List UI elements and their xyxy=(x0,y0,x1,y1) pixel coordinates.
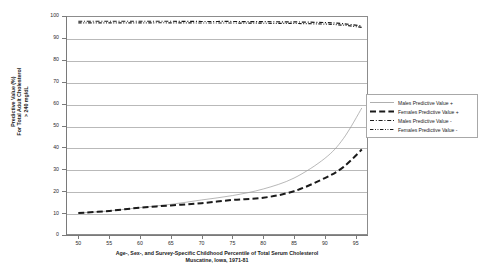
y-tick-label: 50 xyxy=(39,123,59,128)
legend-swatch-males-pv-plus xyxy=(369,99,395,106)
legend-swatch-females-pv-minus xyxy=(369,126,395,133)
y-tick-label: 30 xyxy=(39,167,59,172)
gridline-horizontal xyxy=(67,83,367,84)
gridline-horizontal xyxy=(67,61,367,62)
gridline-horizontal xyxy=(67,127,367,128)
y-tick-label: 100 xyxy=(39,13,59,18)
x-tick-label: 60 xyxy=(129,241,151,246)
plot-area xyxy=(66,16,368,235)
gridline-horizontal xyxy=(67,170,367,171)
x-tick-mark xyxy=(263,235,264,239)
y-axis-title: Predictive Value (%) For Total Adult Cho… xyxy=(10,37,29,167)
legend-item: Males Predictive Value + xyxy=(369,98,475,107)
y-tick-label: 0 xyxy=(39,232,59,237)
chart-legend: Males Predictive Value + Females Predict… xyxy=(366,94,478,138)
legend-label-females-pv-minus: Females Predictive Value - xyxy=(398,127,457,133)
x-axis-line xyxy=(66,235,368,236)
x-tick-label: 65 xyxy=(160,241,182,246)
legend-label-males-pv-plus: Males Predictive Value + xyxy=(398,100,453,106)
legend-swatch-males-pv-minus xyxy=(369,117,395,124)
y-tick-label: 60 xyxy=(39,101,59,106)
legend-item: Females Predictive Value - xyxy=(369,125,475,134)
y-tick-mark xyxy=(62,60,66,61)
legend-item: Males Predictive Value - xyxy=(369,116,475,125)
chart-container: 1009080706050403020100 50556065707580859… xyxy=(0,0,486,275)
x-axis-title-line2: Muscatine, Iowa, 1971-81 xyxy=(66,257,368,264)
x-axis-title-line1: Age-, Sex-, and Survey-Specific Childhoo… xyxy=(66,250,368,257)
y-axis-line xyxy=(66,16,67,235)
x-tick-mark xyxy=(294,235,295,239)
x-tick-mark xyxy=(140,235,141,239)
x-tick-mark xyxy=(171,235,172,239)
legend-item: Females Predictive Value + xyxy=(369,107,475,116)
x-tick-mark xyxy=(325,235,326,239)
y-tick-label: 80 xyxy=(39,57,59,62)
legend-label-females-pv-plus: Females Predictive Value + xyxy=(398,109,459,115)
gridline-horizontal xyxy=(67,192,367,193)
x-tick-label: 75 xyxy=(221,241,243,246)
gridline-horizontal xyxy=(67,148,367,149)
x-tick-mark xyxy=(109,235,110,239)
y-tick-label: 40 xyxy=(39,145,59,150)
x-tick-label: 90 xyxy=(314,241,336,246)
y-tick-mark xyxy=(62,169,66,170)
y-tick-mark xyxy=(62,147,66,148)
y-tick-mark xyxy=(62,16,66,17)
x-tick-label: 55 xyxy=(98,241,120,246)
y-tick-mark xyxy=(62,235,66,236)
x-tick-label: 95 xyxy=(345,241,367,246)
y-tick-label: 90 xyxy=(39,35,59,40)
x-tick-mark xyxy=(356,235,357,239)
y-tick-mark xyxy=(62,191,66,192)
legend-label-males-pv-minus: Males Predictive Value - xyxy=(398,118,452,124)
y-tick-mark xyxy=(62,126,66,127)
x-tick-mark xyxy=(78,235,79,239)
legend-swatch-females-pv-plus xyxy=(369,108,395,115)
y-tick-mark xyxy=(62,104,66,105)
x-tick-label: 80 xyxy=(252,241,274,246)
x-tick-mark xyxy=(232,235,233,239)
y-tick-mark xyxy=(62,213,66,214)
x-tick-label: 70 xyxy=(191,241,213,246)
x-tick-label: 50 xyxy=(67,241,89,246)
x-axis-title: Age-, Sex-, and Survey-Specific Childhoo… xyxy=(66,250,368,265)
y-axis-title-line3: > 240 mg/dL xyxy=(23,37,29,167)
y-tick-mark xyxy=(62,38,66,39)
gridline-horizontal xyxy=(67,214,367,215)
y-tick-label: 10 xyxy=(39,211,59,216)
y-tick-mark xyxy=(62,82,66,83)
y-tick-label: 70 xyxy=(39,79,59,84)
gridline-horizontal xyxy=(67,105,367,106)
gridline-horizontal xyxy=(67,39,367,40)
x-tick-label: 85 xyxy=(283,241,305,246)
y-tick-label: 20 xyxy=(39,189,59,194)
x-tick-mark xyxy=(202,235,203,239)
